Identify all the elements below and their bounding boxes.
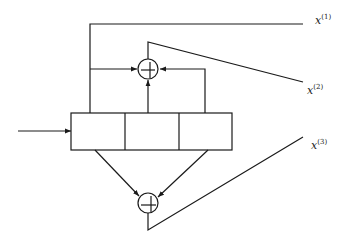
- tap-cell3-top-adder: [160, 69, 205, 113]
- tap-cell3-bottom-adder: [158, 150, 208, 197]
- output-3-sup: (3): [317, 138, 327, 146]
- encoder-diagram: [0, 0, 348, 244]
- output-2-line: [148, 42, 303, 82]
- bottom-adder-circle: [138, 193, 158, 213]
- top-adder-circle: [138, 59, 158, 79]
- output-3-line: [148, 137, 303, 230]
- output-label-2: x(2): [307, 84, 323, 96]
- shift-register: [71, 113, 232, 150]
- output-1-sup: (1): [321, 13, 331, 21]
- output-label-3: x(3): [311, 139, 327, 151]
- output-label-1: x(1): [315, 14, 331, 26]
- tap-cell1-bottom-adder: [95, 150, 139, 196]
- output-2-sup: (2): [313, 83, 323, 91]
